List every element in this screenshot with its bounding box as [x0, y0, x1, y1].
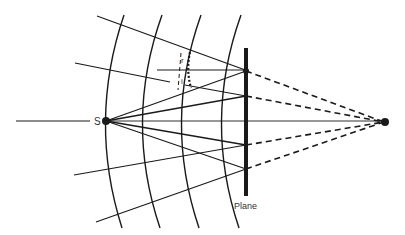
wavefront-2 — [142, 15, 162, 228]
source-ray-2 — [106, 96, 246, 121]
ray-upper-long — [97, 16, 248, 71]
ray-lower-short — [96, 169, 246, 222]
wavefronts — [105, 15, 241, 228]
wavefront-3 — [181, 15, 201, 228]
virtual-rays — [246, 71, 384, 169]
reflection-construction — [157, 52, 246, 96]
plane-label: Plane — [234, 201, 257, 211]
source-ray-1 — [106, 71, 246, 121]
wave-reflection-diagram: S Plane r i — [0, 0, 405, 235]
source-point — [102, 117, 110, 125]
virtual-ray-2 — [246, 96, 384, 122]
plane-point-2 — [244, 94, 248, 98]
plane-point-1 — [243, 68, 249, 74]
reflected-segment — [185, 85, 246, 96]
image-point — [381, 118, 389, 126]
source-ray-4 — [106, 121, 246, 145]
source-ray-5 — [106, 121, 246, 169]
virtual-ray-4 — [246, 122, 384, 145]
diagram-canvas: S Plane r i — [0, 0, 405, 235]
virtual-ray-5 — [246, 122, 384, 169]
virtual-ray-1 — [246, 71, 384, 122]
incident-angle-label: i — [181, 77, 183, 86]
source-label: S — [94, 116, 101, 127]
reflected-angle-label: r — [181, 56, 184, 65]
wavefront-4 — [221, 15, 241, 228]
plane-point-4 — [244, 143, 248, 147]
incident-rays — [16, 16, 248, 222]
ray-upper-short — [75, 63, 170, 82]
plane-point-5 — [244, 167, 248, 171]
